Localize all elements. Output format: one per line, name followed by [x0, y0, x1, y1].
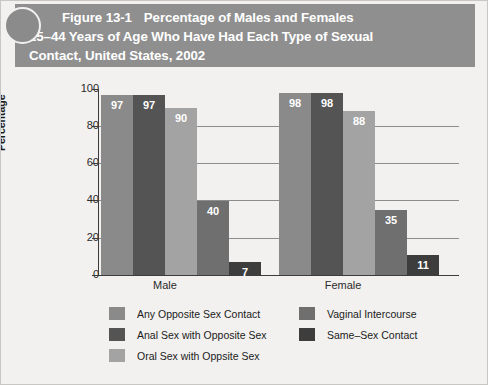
legend-label: Anal Sex with Opposite Sex: [137, 329, 267, 341]
bar-value-label: 97: [133, 99, 165, 111]
chart-legend: Any Opposite Sex ContactAnal Sex with Op…: [109, 304, 469, 374]
category-label-male: Male: [105, 279, 225, 291]
legend-item[interactable]: Vaginal Intercourse: [299, 304, 474, 323]
bar-female-1: 98: [311, 93, 343, 275]
bar-male-1: 97: [133, 95, 165, 275]
legend-item[interactable]: Any Opposite Sex Contact: [109, 304, 294, 323]
legend-item[interactable]: Oral Sex with Oppsite Sex: [109, 346, 294, 365]
figure-container: Figure 13-1Percentage of Males and Femal…: [0, 0, 488, 385]
bar-value-label: 98: [311, 97, 343, 109]
bar-value-label: 98: [279, 97, 311, 109]
figure-header-band: Figure 13-1Percentage of Males and Femal…: [15, 4, 475, 67]
figure-title: Figure 13-1Percentage of Males and Femal…: [62, 8, 487, 65]
legend-label: Oral Sex with Oppsite Sex: [137, 350, 260, 362]
bar-value-label: 90: [165, 112, 197, 124]
legend-swatch-icon: [299, 328, 315, 341]
bar-value-label: 11: [407, 259, 439, 271]
bar-female-3: 35: [375, 210, 407, 275]
figure-number: Figure 13-1: [62, 10, 132, 25]
bar-female-2: 88: [343, 111, 375, 275]
bars-layer: 9797904079898883511: [1, 67, 488, 297]
category-label-female: Female: [283, 279, 403, 291]
bar-value-label: 35: [375, 214, 407, 226]
bar-male-3: 40: [197, 201, 229, 275]
figure-title-line-1: Percentage of Males and Females: [144, 10, 354, 25]
bar-value-label: 97: [101, 99, 133, 111]
figure-title-line-2: 25–44 Years of Age Who Have Had Each Typ…: [29, 27, 487, 46]
legend-item[interactable]: Anal Sex with Opposite Sex: [109, 325, 294, 344]
legend-item[interactable]: Same–Sex Contact: [299, 325, 474, 344]
legend-swatch-icon: [109, 349, 125, 362]
bar-male-0: 97: [101, 95, 133, 275]
legend-swatch-icon: [109, 307, 125, 320]
figure-title-line-3: Contact, United States, 2002: [29, 46, 487, 65]
chart-plot-area: Percentage 100 80 60 40 20 0: [1, 67, 488, 297]
legend-column-right: Vaginal IntercourseSame–Sex Contact: [299, 304, 474, 346]
bar-value-label: 40: [197, 205, 229, 217]
bar-female-0: 98: [279, 93, 311, 275]
legend-label: Same–Sex Contact: [327, 329, 417, 341]
bar-female-4: 11: [407, 255, 439, 275]
decorative-circle-icon: [4, 7, 41, 44]
legend-column-left: Any Opposite Sex ContactAnal Sex with Op…: [109, 304, 294, 367]
bar-male-4: 7: [229, 262, 261, 275]
bar-value-label: 88: [343, 115, 375, 127]
legend-swatch-icon: [299, 307, 315, 320]
legend-label: Any Opposite Sex Contact: [137, 308, 260, 320]
legend-swatch-icon: [109, 328, 125, 341]
bar-value-label: 7: [229, 266, 261, 278]
bar-male-2: 90: [165, 108, 197, 275]
legend-label: Vaginal Intercourse: [327, 308, 417, 320]
